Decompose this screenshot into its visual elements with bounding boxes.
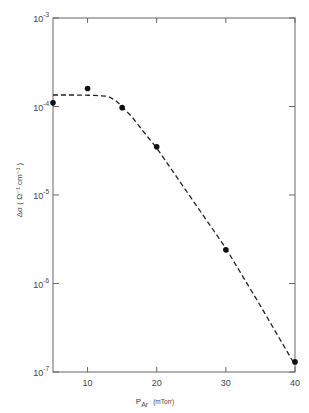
x-axis-ticks: 10203040 <box>83 18 300 388</box>
fit-curve-path <box>53 95 295 365</box>
data-point <box>50 100 56 106</box>
y-tick-label: 10-4 <box>33 100 49 113</box>
fit-curve <box>53 95 295 365</box>
x-tick-label: 10 <box>83 378 93 388</box>
y-tick-label: 10-7 <box>33 365 49 378</box>
y-tick-label: 10-6 <box>33 277 49 290</box>
data-point <box>119 105 125 111</box>
chart: 10203040 10-710-610-510-410-3 PAr(mTorr)… <box>0 0 309 413</box>
data-points <box>50 86 298 365</box>
plot-border <box>53 18 295 372</box>
data-point <box>292 359 298 365</box>
data-point <box>223 247 229 253</box>
y-axis-title: Δσ ( Ω⁻¹ cm⁻¹ ) <box>15 162 24 217</box>
x-axis-title: PAr(mTorr) <box>136 397 174 408</box>
y-axis-title-text: Δσ ( Ω⁻¹ cm⁻¹ ) <box>15 162 24 217</box>
data-point <box>85 86 91 92</box>
x-tick-label: 30 <box>221 378 231 388</box>
x-tick-label: 20 <box>152 378 162 388</box>
y-tick-label: 10-3 <box>33 11 49 24</box>
x-tick-label: 40 <box>290 378 300 388</box>
y-tick-label: 10-5 <box>33 188 49 201</box>
data-point <box>154 144 160 150</box>
plot-frame <box>53 18 295 372</box>
y-axis-ticks: 10-710-610-510-410-3 <box>33 11 295 378</box>
x-axis-title-text: PAr(mTorr) <box>136 397 174 408</box>
